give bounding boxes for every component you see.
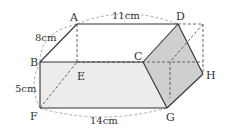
vertex-label-a: A (69, 11, 79, 24)
dimension-depth: 8cm (35, 32, 57, 43)
dimension-height: 5cm (15, 83, 37, 94)
prism-diagram: A D B C E H F G 11cm 8cm 5cm 14cm (0, 0, 225, 133)
vertex-label-d: D (176, 10, 185, 23)
dimension-top: 11cm (112, 10, 140, 21)
vertex-label-h: H (206, 69, 216, 82)
dimension-bottom: 14cm (90, 115, 118, 126)
vertex-label-b: B (30, 56, 38, 69)
vertex-label-c: C (134, 50, 142, 63)
diagram-canvas: A D B C E H F G 11cm 8cm 5cm 14cm (0, 0, 225, 133)
vertex-label-g: G (166, 111, 175, 124)
vertex-label-e: E (77, 70, 85, 83)
vertex-label-f: F (30, 110, 38, 123)
